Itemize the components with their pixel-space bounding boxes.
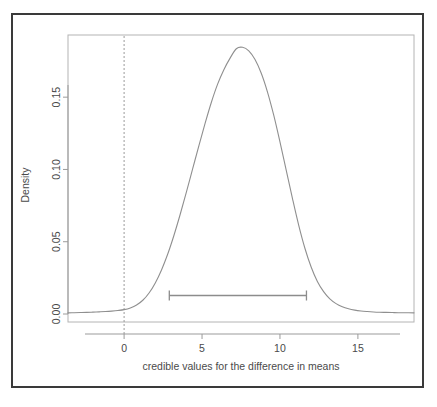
y-tick-labels: 0.000.050.100.15 [50,87,62,324]
x-tick-label: 10 [274,342,286,354]
x-axis-title: credible values for the difference in me… [142,360,339,372]
density-curve [68,47,414,313]
x-tick-label: 15 [352,342,364,354]
x-tick-marks [124,334,358,339]
y-tick-label: 0.00 [50,304,62,325]
chart-canvas: 0.000.050.100.15 051015 credible values … [0,0,437,407]
y-tick-label: 0.05 [50,231,62,252]
y-tick-label: 0.15 [50,87,62,108]
y-tick-marks [63,97,68,314]
y-axis-title: Density [19,167,31,203]
density-plot-figure: 0.000.050.100.15 051015 credible values … [0,0,437,407]
hdi-interval-bar [169,290,306,300]
y-tick-label: 0.10 [50,159,62,180]
x-tick-label: 0 [121,342,127,354]
x-tick-labels: 051015 [121,342,364,354]
x-tick-label: 5 [199,342,205,354]
plot-area-border [68,35,414,322]
